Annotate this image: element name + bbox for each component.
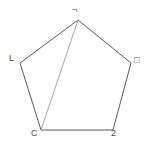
vertex-label-bottom-right: 2	[111, 129, 116, 138]
vertex-label-apex: ¬	[72, 6, 77, 15]
vertex-label-left: L	[9, 54, 14, 63]
pentagon-outline	[20, 20, 131, 130]
pentagon-figure: ¬ □ 2 C L	[0, 0, 153, 152]
pentagon-canvas	[0, 0, 153, 152]
vertex-label-right: □	[134, 56, 139, 65]
vertex-label-bottom-left: C	[31, 129, 38, 138]
diagonal-apex-to-botleft	[41, 20, 78, 130]
